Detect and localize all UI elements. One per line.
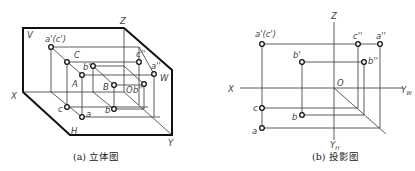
label-b-double-prime: b''	[133, 85, 143, 95]
proj-label-Yw: YW	[401, 85, 412, 96]
label-H: H	[71, 126, 78, 136]
proj-point-b-prime	[300, 60, 305, 65]
label-c-double-prime: c''	[136, 49, 145, 59]
point-A	[80, 73, 85, 78]
planes-outline	[23, 28, 172, 135]
point-a-double-prime	[152, 72, 157, 77]
proj-point-c	[260, 106, 265, 111]
point-C	[65, 60, 70, 65]
caption-b: (b) 投影图	[312, 151, 359, 162]
proj-label-O: O	[337, 78, 344, 88]
label-b-prime: b'	[83, 62, 91, 72]
label-A: A	[71, 79, 78, 89]
figure-b-projection-view: Z X O YW YH a'(c') c'' a'' b' b'' c b a …	[227, 11, 412, 162]
45-degree-line	[334, 88, 386, 134]
proj-point-a	[260, 126, 265, 131]
caption-a: (a) 立体图	[73, 151, 119, 162]
label-a-double-prime: a''	[151, 61, 161, 71]
proj-point-b-double-prime	[362, 60, 367, 65]
proj-label-c-double-prime: c''	[353, 31, 362, 41]
label-b: b	[105, 105, 110, 115]
y-axis-line	[124, 92, 172, 135]
proj-label-X: X	[227, 84, 234, 94]
projection-figure: V Z X H Y W a'(c') C b' A B O b'' c'' a'…	[0, 0, 415, 171]
proj-label-Yh: YH	[330, 140, 339, 151]
label-a-prime-c-prime: a'(c')	[45, 34, 66, 44]
proj-label-a-prime-c-prime: a'(c')	[255, 29, 276, 39]
label-B: B	[103, 82, 109, 92]
label-Y: Y	[168, 138, 174, 148]
label-X: X	[10, 91, 17, 101]
label-a: a	[86, 109, 91, 119]
point-b-prime	[91, 64, 96, 69]
proj-label-b: b	[292, 112, 297, 122]
proj-label-a-double-prime: a''	[376, 31, 386, 41]
point-b	[112, 107, 117, 112]
proj-point-a-prime-c-prime	[260, 42, 265, 47]
proj-label-b-prime: b'	[293, 50, 301, 60]
label-Z: Z	[119, 16, 126, 26]
figure-a-3d-view: V Z X H Y W a'(c') C b' A B O b'' c'' a'…	[0, 0, 415, 171]
label-V: V	[27, 30, 34, 40]
proj-point-c-double-prime	[356, 42, 361, 47]
proj-point-a-double-prime	[378, 42, 383, 47]
point-c-double-prime	[137, 60, 142, 65]
proj-label-Z: Z	[330, 11, 337, 21]
point-a-prime-c-prime	[49, 45, 54, 50]
proj-label-b-double-prime: b''	[368, 56, 378, 66]
proj-label-c: c	[253, 103, 258, 113]
label-c: c	[58, 104, 63, 114]
proj-point-b	[300, 113, 305, 118]
label-O: O	[126, 85, 133, 95]
point-a	[80, 115, 85, 120]
label-C: C	[74, 50, 80, 60]
point-B	[112, 83, 117, 88]
point-c	[65, 105, 70, 110]
label-W: W	[160, 73, 169, 83]
proj-label-a: a	[252, 126, 257, 136]
